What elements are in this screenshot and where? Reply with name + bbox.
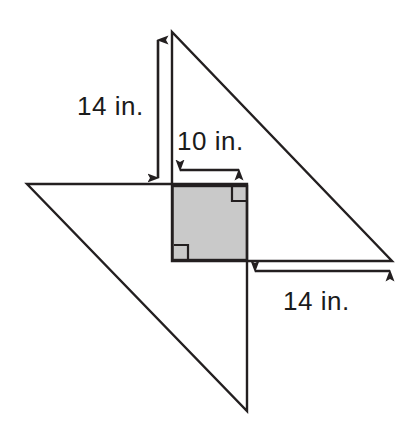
geometry-canvas xyxy=(0,0,417,435)
geometry-figure: 14 in. 10 in. 14 in. xyxy=(0,0,417,435)
shaded-overlap-square xyxy=(173,187,248,261)
height-dimension-label: 14 in. xyxy=(77,93,144,119)
square-side-dimension-label: 10 in. xyxy=(177,128,244,154)
base-dimension-label: 14 in. xyxy=(283,288,350,314)
